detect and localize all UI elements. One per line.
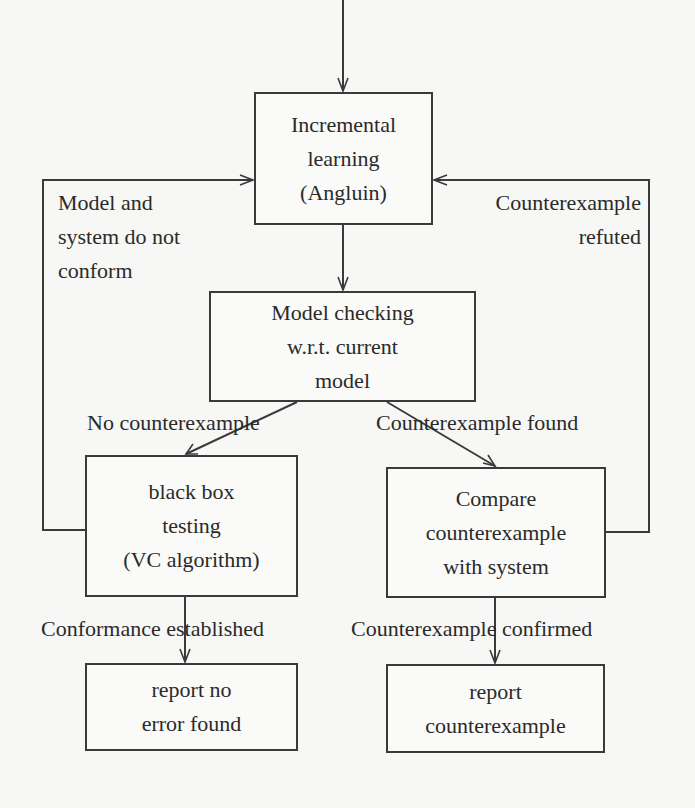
node-text-line: report [469,675,522,709]
edge-label-no-counterexample: No counterexample [87,406,260,440]
flowchart-diagram: Incremental learning (Angluin) Model che… [0,0,695,808]
label-line: system do not [58,220,180,254]
node-report-no-error: report no error found [85,663,298,751]
node-text-line: error found [142,707,242,741]
node-text-line: counterexample [426,516,567,550]
node-model-checking: Model checking w.r.t. current model [209,291,476,402]
edge-entry [338,0,348,91]
label-line: Counterexample [459,186,641,220]
label-line: refuted [459,220,641,254]
label-line: No counterexample [87,406,260,440]
node-text-line: Incremental [291,108,396,142]
node-black-box-testing: black box testing (VC algorithm) [85,455,298,597]
edge-label-conformance-established: Conformance established [41,612,264,646]
label-line: conform [58,254,180,288]
node-text-line: (Angluin) [300,176,387,210]
label-line: Counterexample confirmed [351,612,592,646]
node-text-line: report no [151,673,231,707]
node-text-line: learning [307,142,379,176]
node-text-line: w.r.t. current [287,330,398,364]
label-line: Counterexample found [376,406,578,440]
edge-label-counterexample-confirmed: Counterexample confirmed [351,612,592,646]
node-text-line: Compare [456,482,537,516]
node-text-line: Model checking [271,296,413,330]
node-report-counterexample: report counterexample [386,664,605,753]
node-incremental-learning: Incremental learning (Angluin) [254,92,433,225]
node-text-line: black box [148,475,234,509]
edge-label-refuted: Counterexample refuted [459,186,641,254]
edge-label-counterexample-found: Counterexample found [376,406,578,440]
node-text-line: with system [443,550,549,584]
node-text-line: counterexample [425,709,566,743]
label-line: Model and [58,186,180,220]
node-text-line: testing [162,509,221,543]
edge-learn-to-check [338,225,348,290]
node-text-line: (VC algorithm) [123,543,259,577]
label-line: Conformance established [41,612,264,646]
node-compare-counterexample: Compare counterexample with system [386,467,606,598]
node-text-line: model [315,364,370,398]
edge-label-not-conform: Model and system do not conform [58,186,180,288]
